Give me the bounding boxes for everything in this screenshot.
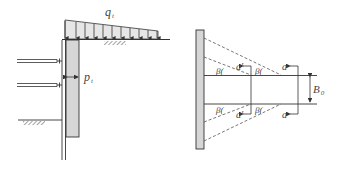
beta-label: β( [254,105,263,115]
section-a-prime-bottom: a′ [236,109,244,120]
plan-wall [196,30,204,149]
anchor-plan-figure: a′ a′ a a β( β( β( β( B0 [196,30,325,149]
anchor-lower [17,83,62,88]
pressure-panel [66,40,79,137]
anchor-upper [17,59,62,64]
ground-hatch-icon [104,41,126,45]
section-a-top: a [282,61,287,72]
section-a-bottom: a [282,109,287,120]
beta-label: β( [215,66,224,76]
pressure-label: pt [83,70,94,85]
beta-label: β( [254,66,263,76]
surcharge-label: qt [105,5,115,20]
surcharge-load [65,20,158,39]
retaining-wall-figure: qt pt [17,5,170,160]
beta-label: β( [215,105,224,115]
width-label: B0 [313,83,325,97]
diagram-canvas: qt pt [0,0,339,169]
section-a-prime-top: a′ [236,61,244,72]
excavation-hatch-icon [23,121,45,125]
influence-lines [204,38,281,141]
